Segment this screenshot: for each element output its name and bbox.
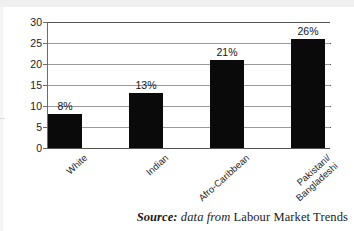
y-axis-tick-label: 25 — [14, 38, 42, 49]
source-middle: data from — [178, 210, 234, 224]
y-axis-tick-label: 10 — [14, 101, 42, 112]
y-axis-tick-label: 5 — [14, 122, 42, 133]
x-axis-category-label: White — [0, 152, 89, 231]
gridline — [48, 22, 330, 23]
y-axis-tick-mark — [43, 127, 47, 128]
y-axis-tick-mark — [43, 43, 47, 44]
gridline — [48, 106, 330, 107]
bar — [48, 114, 82, 148]
y-axis-tick-label: 0 — [14, 143, 42, 154]
bar-value-label: 21% — [204, 47, 250, 58]
source-caption: Source: data from Labour Market Trends — [137, 210, 348, 225]
y-axis-tick-mark — [43, 64, 47, 65]
y-axis-tick-label: 15 — [14, 80, 42, 91]
y-axis-tick-label: 30 — [14, 17, 42, 28]
y-axis-tick-mark — [43, 148, 47, 149]
bar-value-label: 26% — [285, 26, 331, 37]
gridline — [48, 148, 330, 149]
bar — [129, 93, 163, 148]
gridline — [48, 127, 330, 128]
y-axis-tick-label: 20 — [14, 59, 42, 70]
gridline — [48, 64, 330, 65]
bar — [291, 39, 325, 148]
bar-value-label: 13% — [123, 80, 169, 91]
bar — [210, 60, 244, 148]
source-publication: Labour Market Trends — [234, 210, 349, 224]
source-label: Source: — [137, 210, 178, 224]
bar-value-label: 8% — [42, 101, 88, 112]
gridline — [48, 85, 330, 86]
y-axis-tick-mark — [43, 85, 47, 86]
bar-chart-figure: 051015202530 8%13%21%26% WhiteIndianAfro… — [0, 0, 354, 231]
y-axis-tick-mark — [43, 22, 47, 23]
gridline — [48, 43, 330, 44]
plot-area — [48, 22, 330, 148]
